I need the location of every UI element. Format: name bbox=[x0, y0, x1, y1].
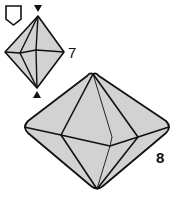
triangle-up-icon bbox=[33, 91, 41, 98]
triangle-down-icon bbox=[34, 5, 42, 12]
step-8-model bbox=[24, 73, 169, 189]
step-7-number: 7 bbox=[68, 45, 76, 60]
pentagon-base-icon bbox=[6, 6, 21, 25]
step-7-model bbox=[5, 16, 64, 88]
step-8-number: 8 bbox=[156, 150, 164, 165]
origami-diagram bbox=[0, 0, 178, 206]
